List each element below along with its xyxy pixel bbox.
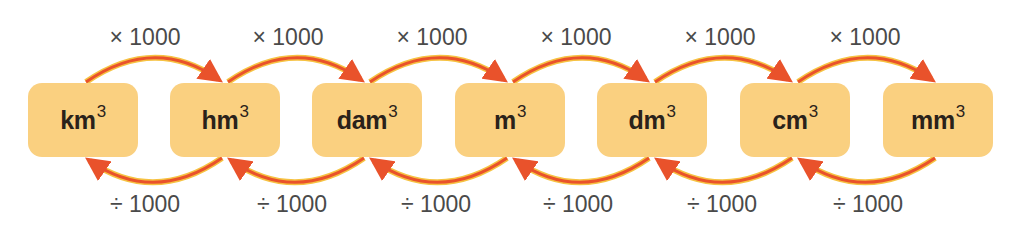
divide-label: ÷ 1000 (798, 191, 938, 218)
multiply-label: × 1000 (506, 24, 646, 51)
multiply-label: × 1000 (795, 24, 935, 51)
unit-label: cm3 (772, 105, 818, 135)
multiply-label: × 1000 (362, 24, 502, 51)
divide-label: ÷ 1000 (366, 191, 506, 218)
multiply-label: × 1000 (218, 24, 358, 51)
unit-box-mm3: mm3 (883, 83, 993, 157)
unit-box-m3: m3 (455, 83, 565, 157)
divide-label: ÷ 1000 (652, 191, 792, 218)
unit-label: dm3 (628, 105, 675, 135)
divide-label: ÷ 1000 (222, 191, 362, 218)
unit-conversion-diagram: km3 hm3 dam3 m3 dm3 cm3 mm3 × 1000 × 100… (0, 0, 1021, 233)
unit-label: km3 (60, 105, 106, 135)
unit-box-km3: km3 (28, 83, 138, 157)
unit-label: m3 (494, 105, 526, 135)
unit-box-dam3: dam3 (312, 83, 422, 157)
unit-box-cm3: cm3 (740, 83, 850, 157)
divide-label: ÷ 1000 (75, 191, 215, 218)
unit-box-hm3: hm3 (170, 83, 280, 157)
unit-box-dm3: dm3 (597, 83, 707, 157)
multiply-label: × 1000 (75, 24, 215, 51)
multiply-label: × 1000 (650, 24, 790, 51)
unit-label: dam3 (337, 105, 398, 135)
unit-label: mm3 (911, 105, 965, 135)
divide-label: ÷ 1000 (508, 191, 648, 218)
unit-label: hm3 (201, 105, 248, 135)
